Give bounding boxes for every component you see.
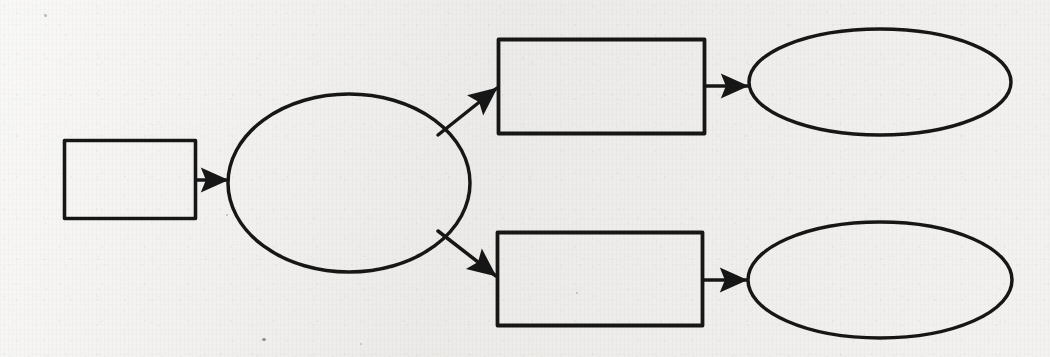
start-rectangle xyxy=(65,141,196,219)
scanned-page xyxy=(0,0,1050,357)
lower-branch-rectangle xyxy=(498,233,703,326)
flowchart-diagram xyxy=(0,0,1050,357)
edge-decision-to-upper-rectangle xyxy=(438,88,497,135)
edge-decision-to-lower-rectangle xyxy=(438,231,496,276)
decision-ellipse xyxy=(228,94,470,272)
upper-branch-rectangle xyxy=(499,40,705,134)
upper-branch-ellipse xyxy=(749,29,1011,135)
lower-branch-ellipse xyxy=(748,222,1012,338)
